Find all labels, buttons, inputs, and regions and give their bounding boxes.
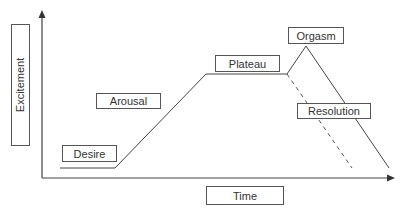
phase-box-arousal: Arousal bbox=[96, 93, 161, 109]
phase-box-resolution: Resolution bbox=[297, 103, 371, 119]
y-axis-label-box: Excitement bbox=[11, 24, 30, 146]
phase-box-desire: Desire bbox=[62, 145, 117, 162]
phase-box-plateau: Plateau bbox=[215, 55, 280, 72]
y-axis bbox=[39, 10, 46, 178]
y-axis-arrow-icon bbox=[39, 10, 46, 18]
x-axis-label: Time bbox=[233, 190, 257, 202]
phase-label-arousal: Arousal bbox=[110, 95, 147, 107]
excitement-curve-dashed bbox=[287, 74, 352, 168]
phase-box-orgasm: Orgasm bbox=[288, 27, 344, 44]
x-axis bbox=[42, 175, 395, 182]
phase-label-resolution: Resolution bbox=[308, 105, 360, 117]
phase-label-desire: Desire bbox=[74, 148, 106, 160]
x-axis-arrow-icon bbox=[387, 175, 395, 182]
x-axis-label-box: Time bbox=[206, 186, 284, 205]
phase-label-orgasm: Orgasm bbox=[296, 30, 335, 42]
phase-label-plateau: Plateau bbox=[229, 58, 266, 70]
y-axis-label: Excitement bbox=[15, 58, 27, 112]
